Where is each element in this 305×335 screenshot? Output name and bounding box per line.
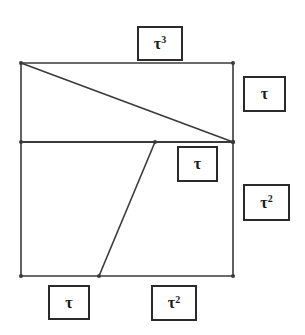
label-bottom-right-tau-squared: τ2 — [151, 285, 197, 321]
label-base: τ — [154, 36, 161, 52]
label-base: τ — [65, 295, 72, 311]
label-top-tau-cubed: τ3 — [137, 26, 183, 61]
label-exponent: 2 — [175, 294, 180, 305]
upper-diagonal — [21, 63, 233, 142]
label-exponent: 2 — [268, 193, 273, 204]
label-right-upper-tau: τ — [243, 76, 286, 112]
label-base: τ — [168, 295, 175, 311]
vertex-mid-split — [153, 140, 157, 144]
vertex-mid-left — [19, 140, 23, 144]
vertex-top-left — [19, 61, 23, 65]
label-base: τ — [260, 195, 267, 211]
vertex-bottom-left — [19, 274, 23, 278]
lower-slant — [99, 142, 155, 276]
label-middle-inner-tau: τ — [177, 146, 218, 182]
label-right-lower-tau-squared: τ2 — [243, 184, 290, 221]
vertex-bottom-split — [97, 274, 101, 278]
vertex-bottom-right — [231, 274, 235, 278]
label-base: τ — [194, 156, 201, 172]
vertex-mid-right — [231, 140, 235, 144]
vertex-top-right — [231, 61, 235, 65]
label-base: τ — [261, 86, 268, 102]
label-bottom-left-tau: τ — [48, 285, 90, 320]
label-exponent: 3 — [161, 34, 166, 45]
